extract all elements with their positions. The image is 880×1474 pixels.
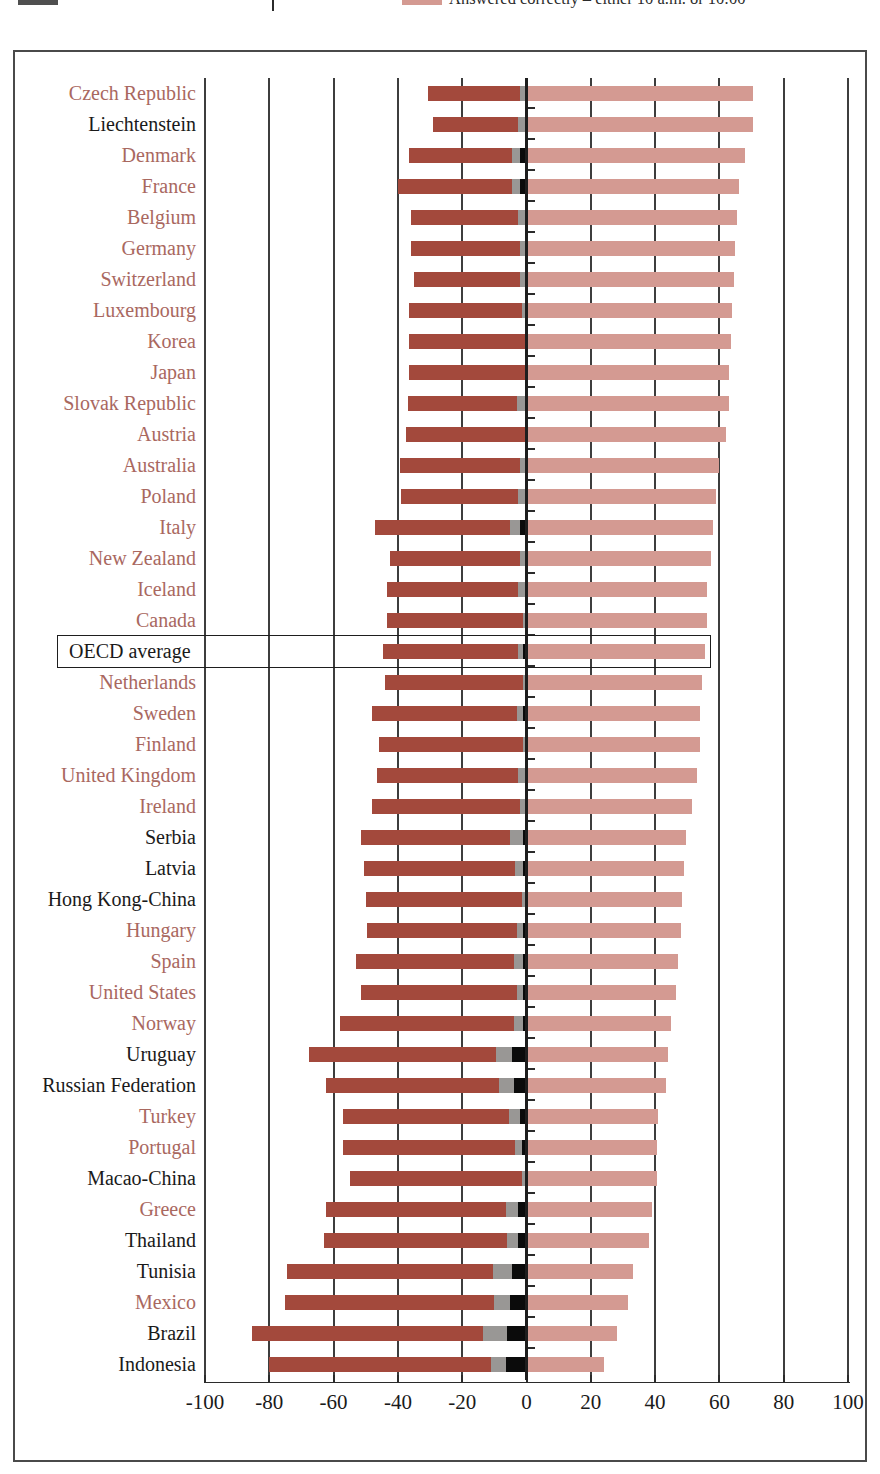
category-label: Australia	[123, 450, 205, 481]
bar-segment-correct	[527, 458, 720, 473]
bar-segment-correct	[527, 1171, 657, 1186]
x-axis-tick-label: -80	[255, 1390, 283, 1415]
zero-axis-tick	[528, 200, 535, 202]
x-axis-tick-label: 20	[580, 1390, 601, 1415]
bar-segment-no-response	[494, 1295, 510, 1310]
bar-segment-no-response	[517, 923, 523, 938]
bar-segment-no-response	[512, 179, 520, 194]
bar-segment-incorrect	[387, 613, 524, 628]
bar-segment-incorrect	[350, 1171, 522, 1186]
bar-segment-correct	[527, 489, 717, 504]
bar-segment-incorrect	[287, 1264, 493, 1279]
bar-segment-correct	[527, 179, 739, 194]
zero-axis-tick	[528, 665, 535, 667]
x-axis-tick	[268, 1375, 270, 1383]
zero-axis-tick	[528, 1006, 535, 1008]
bar-segment-incorrect	[367, 923, 516, 938]
bar-segment-no-response	[512, 148, 520, 163]
bar-segment-incorrect	[326, 1078, 500, 1093]
x-axis-tick	[783, 1375, 785, 1383]
bar-segment-incorrect	[366, 892, 522, 907]
zero-axis-tick	[528, 603, 535, 605]
category-label: Greece	[139, 1194, 205, 1225]
zero-axis-tick	[528, 448, 535, 450]
bar-segment-correct	[527, 272, 734, 287]
bar-segment-correct	[527, 1109, 659, 1124]
bar-segment-incorrect	[409, 148, 512, 163]
category-label: United Kingdom	[61, 760, 205, 791]
zero-axis-tick	[528, 944, 535, 946]
category-label: Japan	[150, 357, 205, 388]
bar-segment-correct	[527, 1140, 657, 1155]
bar-segment-correct	[527, 1016, 672, 1031]
x-axis-tick-label: -60	[320, 1390, 348, 1415]
bar-segment-correct	[527, 210, 738, 225]
bar-segment-incorrect	[409, 303, 522, 318]
category-label: Uruguay	[126, 1039, 205, 1070]
bar-segment-correct	[527, 334, 731, 349]
bar-segment-correct	[527, 768, 697, 783]
bar-segment-incorrect	[409, 365, 525, 380]
bar-segment-incorrect	[364, 861, 515, 876]
category-label: Mexico	[135, 1287, 205, 1318]
bar-segment-incorrect	[406, 427, 525, 442]
category-label: Serbia	[145, 822, 205, 853]
bar-segment-no-response	[518, 644, 523, 659]
bar-segment-incorrect	[343, 1109, 509, 1124]
bar-segment-correct	[527, 1295, 628, 1310]
bar-segment-correct	[527, 1202, 652, 1217]
bar-segment-no-response	[483, 1326, 507, 1341]
zero-axis-tick	[528, 510, 535, 512]
legend-swatch-icon	[402, 0, 442, 5]
bar-segment-incorrect	[340, 1016, 514, 1031]
category-label: Slovak Republic	[63, 388, 205, 419]
zero-axis-tick	[528, 696, 535, 698]
category-label: Hungary	[126, 915, 205, 946]
x-axis-tick-label: -100	[186, 1390, 225, 1415]
category-label: Belgium	[127, 202, 205, 233]
bar-segment-correct	[527, 303, 733, 318]
x-axis-tick-label: -40	[384, 1390, 412, 1415]
category-label: France	[142, 171, 205, 202]
bar-segment-incorrect	[401, 489, 518, 504]
bar-segment-incorrect	[390, 551, 520, 566]
bar-segment-incorrect	[383, 644, 518, 659]
zero-axis-tick	[528, 231, 535, 233]
category-label: Liechtenstein	[88, 109, 205, 140]
zero-axis-tick	[528, 758, 535, 760]
bar-segment-no-response	[518, 489, 524, 504]
zero-axis-tick	[528, 1285, 535, 1287]
bar-segment-incorrect	[428, 86, 520, 101]
x-axis-tick-label: 60	[709, 1390, 730, 1415]
category-label: Netherlands	[99, 667, 205, 698]
bar-segment-no-response	[491, 1357, 505, 1372]
zero-axis-line	[525, 78, 528, 1380]
bar-segment-not-reached	[506, 1357, 527, 1372]
bar-segment-correct	[527, 520, 713, 535]
zero-axis-tick	[528, 975, 535, 977]
category-label: Denmark	[122, 140, 205, 171]
bar-segment-not-reached	[507, 1326, 526, 1341]
x-axis-tick-label: 0	[521, 1390, 532, 1415]
bar-segment-incorrect	[379, 737, 524, 752]
category-label: Thailand	[125, 1225, 205, 1256]
bar-segment-correct	[527, 613, 707, 628]
bar-segment-no-response	[515, 1140, 521, 1155]
zero-axis-tick	[528, 913, 535, 915]
zero-axis-tick	[528, 169, 535, 171]
bar-segment-no-response	[499, 1078, 513, 1093]
bar-segment-incorrect	[408, 396, 517, 411]
plot-area	[205, 78, 848, 1380]
category-label: Poland	[140, 481, 205, 512]
bar-segment-incorrect	[309, 1047, 495, 1062]
category-label: Iceland	[137, 574, 205, 605]
bar-segment-incorrect	[411, 241, 520, 256]
zero-axis-tick	[528, 1130, 535, 1132]
bar-segment-no-response	[517, 396, 525, 411]
x-axis-tick	[654, 1375, 656, 1383]
category-label: Norway	[132, 1008, 205, 1039]
bar-segment-incorrect	[372, 799, 520, 814]
category-label: Russian Federation	[42, 1070, 205, 1101]
bar-segment-incorrect	[411, 210, 519, 225]
bar-segment-no-response	[509, 1109, 520, 1124]
